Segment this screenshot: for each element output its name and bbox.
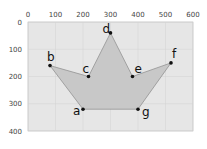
y-tick-label: 300 [9,100,22,108]
polygon-scatter-chart: 0100200300400500600 0100200300400 abcdef… [0,0,207,149]
point-a-label: a [73,104,80,118]
y-axis-ticks: 0100200300400 [9,19,22,136]
x-tick-label: 0 [26,11,30,19]
y-tick-label: 0 [18,19,22,27]
point-f-marker [169,61,173,65]
point-b-label: b [47,50,55,64]
y-tick-label: 400 [9,128,22,136]
point-g-label: g [142,105,150,119]
point-e-label: e [135,62,142,76]
y-tick-label: 100 [9,46,22,54]
point-a-marker [81,107,85,111]
point-g-marker [136,107,140,111]
point-c-label: c [83,62,90,76]
point-b-marker [48,64,52,68]
x-tick-label: 200 [76,11,89,19]
x-tick-label: 300 [104,11,117,19]
x-tick-label: 400 [131,11,144,19]
point-d-label: d [103,22,111,36]
x-tick-label: 500 [159,11,172,19]
y-tick-label: 200 [9,73,22,81]
chart-container: 0100200300400500600 0100200300400 abcdef… [0,0,207,149]
x-tick-label: 100 [49,11,62,19]
x-axis-ticks: 0100200300400500600 [26,11,200,19]
x-tick-label: 600 [186,11,199,19]
